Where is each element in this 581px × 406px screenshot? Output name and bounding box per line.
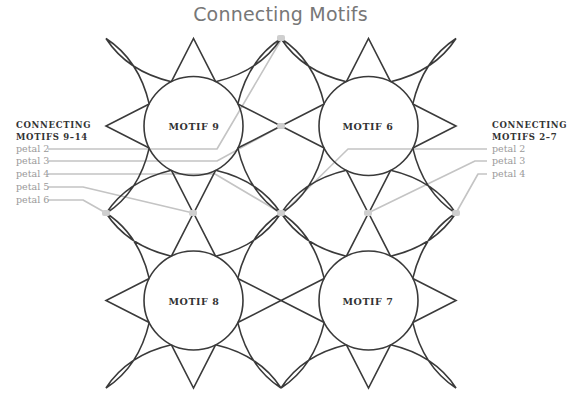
left-petal-4-label: petal 4 (16, 168, 49, 180)
leader-line (48, 200, 106, 213)
left-petal-2-label: petal 2 (16, 143, 49, 155)
join-node (277, 35, 285, 41)
right-group-heading: CONNECTING MOTIFS 2–7 (492, 119, 567, 143)
motif-8-label: MOTIF 8 (168, 296, 219, 307)
motif-diagram (0, 0, 581, 406)
join-node (189, 210, 197, 216)
leader-lines (48, 40, 487, 213)
join-node (277, 210, 285, 216)
left-heading-line2: MOTIFS 9–14 (16, 131, 91, 143)
right-petal-2-label: petal 2 (492, 143, 525, 155)
right-heading-line1: CONNECTING (492, 119, 567, 131)
leader-line (368, 161, 487, 213)
right-petal-4-label: petal 4 (492, 168, 525, 180)
left-group-heading: CONNECTING MOTIFS 9–14 (16, 119, 91, 143)
left-petal-5-label: petal 5 (16, 181, 49, 193)
join-node (102, 210, 110, 216)
leader-line (48, 174, 281, 213)
join-nodes (102, 35, 460, 216)
motif-6-label: MOTIF 6 (342, 121, 393, 132)
motif-7-label: MOTIF 7 (342, 296, 393, 307)
right-heading-line2: MOTIFS 2–7 (492, 131, 567, 143)
join-node (452, 210, 460, 216)
right-petal-3-label: petal 3 (492, 155, 525, 167)
join-node (364, 210, 372, 216)
motif-9-label: MOTIF 9 (168, 121, 219, 132)
leader-line (456, 174, 487, 213)
left-petal-3-label: petal 3 (16, 155, 49, 167)
left-heading-line1: CONNECTING (16, 119, 91, 131)
join-node (277, 123, 285, 129)
left-petal-6-label: petal 6 (16, 194, 49, 206)
